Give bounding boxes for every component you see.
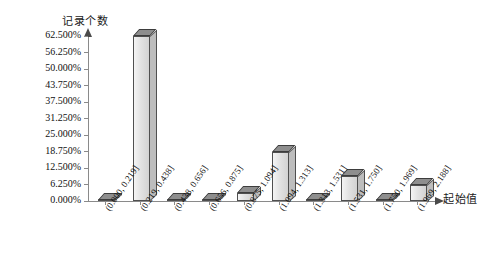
y-axis-tick-label: 50.000%: [45, 62, 81, 73]
y-axis-tick-label: 56.250%: [45, 46, 81, 57]
x-axis-arrow-icon: [435, 197, 444, 205]
y-axis-tick-label: 6.250%: [50, 178, 81, 189]
y-axis-tick-mark: [84, 168, 88, 169]
y-axis-tick-label: 37.500%: [45, 95, 81, 106]
y-axis-tick-mark: [84, 52, 88, 53]
y-axis-tick-label: 12.500%: [45, 161, 81, 172]
y-axis-tick-label: 62.500%: [45, 29, 81, 40]
histogram-chart: 记录个数 起始值 62.500%56.250%50.000%43.750%37.…: [0, 0, 495, 268]
y-axis-tick-mark: [84, 151, 88, 152]
y-axis-tick-mark: [84, 36, 88, 37]
y-axis-tick-label: 0.000%: [50, 194, 81, 205]
y-axis-tick-mark: [84, 184, 88, 185]
y-axis-tick-label: 18.750%: [45, 145, 81, 156]
bar-side-face: [150, 30, 157, 201]
y-axis-tick-mark: [84, 135, 88, 136]
bar-slot[interactable]: [89, 36, 124, 201]
y-axis-tick-label: 25.000%: [45, 128, 81, 139]
y-axis-tick-mark: [84, 85, 88, 86]
y-axis-tick-mark: [84, 201, 88, 202]
y-axis-tick-mark: [84, 102, 88, 103]
y-axis-tick-mark: [84, 69, 88, 70]
y-axis-tick-label: 31.250%: [45, 112, 81, 123]
y-axis-tick-mark: [84, 118, 88, 119]
x-axis-title: 起始值: [443, 190, 478, 206]
y-axis-title: 记录个数: [62, 12, 108, 28]
y-axis-tick-label: 43.750%: [45, 79, 81, 90]
